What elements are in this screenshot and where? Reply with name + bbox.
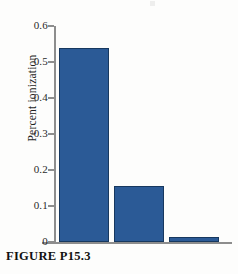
y-axis-tick: [48, 205, 54, 207]
scan-artifact: [150, 1, 155, 6]
x-axis-line: [42, 242, 232, 244]
y-axis-tick: [48, 241, 54, 243]
y-axis-tick-label: 0.3: [22, 128, 48, 139]
y-axis-tick-label: 0.2: [22, 164, 48, 175]
y-axis-tick-label: 0.5: [22, 56, 48, 67]
y-axis-tick: [48, 97, 54, 99]
figure-container: Percent ionization 00.10.20.30.40.50.6 F…: [0, 0, 238, 274]
y-axis-tick: [48, 133, 54, 135]
y-axis-tick: [48, 61, 54, 63]
y-axis-tick-label: 0: [22, 236, 48, 247]
y-axis-tick-label: 0.6: [22, 20, 48, 31]
y-axis-tick-label: 0.4: [22, 92, 48, 103]
bar: [114, 186, 164, 242]
bar: [59, 48, 109, 242]
figure-caption: FIGURE P15.3: [6, 249, 91, 264]
bar: [169, 237, 219, 242]
y-axis-tick: [48, 25, 54, 27]
plot-area: [56, 26, 222, 242]
y-axis-tick-label: 0.1: [22, 200, 48, 211]
y-axis-tick: [48, 169, 54, 171]
